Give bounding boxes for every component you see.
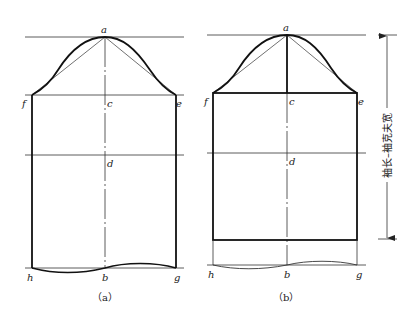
af-line [32, 37, 105, 95]
sleeve-body-rect [213, 93, 357, 240]
label-b: b [284, 269, 290, 280]
label-a: a [101, 24, 107, 35]
ae-line [105, 37, 176, 95]
label-g: g [356, 269, 362, 280]
label-e: e [358, 96, 364, 107]
caption-b: （b） [273, 292, 299, 303]
label-c: c [289, 96, 295, 107]
sleeve-pattern-figure: a f c e d h b g （a） a f c e d [0, 0, 418, 327]
label-e: e [176, 98, 182, 109]
dimension-label: 袖长–袖克夫宽 [381, 113, 393, 178]
dimension-sleeve-length-minus-cuff: 袖长–袖克夫宽 [378, 35, 397, 239]
panel-b: a f c e d h b g （b） [203, 22, 366, 303]
ae-line [287, 35, 357, 93]
label-d: d [289, 156, 295, 167]
panel-a: a f c e d h b g （a） [21, 24, 184, 303]
sleeve-cap-curve [213, 35, 357, 93]
af-line [213, 35, 287, 93]
label-a: a [283, 22, 289, 33]
label-g: g [174, 272, 180, 283]
sleeve-cap-curve [32, 37, 176, 95]
label-d: d [107, 158, 113, 169]
label-h: h [208, 269, 214, 280]
label-f: f [21, 98, 28, 109]
label-h: h [27, 272, 33, 283]
label-c: c [107, 98, 113, 109]
caption-a: （a） [92, 292, 118, 303]
label-f: f [203, 96, 210, 107]
label-b: b [102, 272, 108, 283]
